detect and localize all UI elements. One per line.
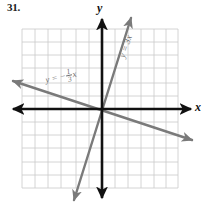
x-axis-label: x bbox=[195, 101, 201, 113]
fraction-denominator: 3 bbox=[66, 75, 73, 84]
axes bbox=[13, 19, 191, 198]
coordinate-plane-figure bbox=[0, 0, 209, 209]
problem-number: 31. bbox=[7, 2, 20, 13]
y-axis-label: y bbox=[97, 2, 102, 14]
equation-prefix: y = − bbox=[44, 71, 66, 85]
